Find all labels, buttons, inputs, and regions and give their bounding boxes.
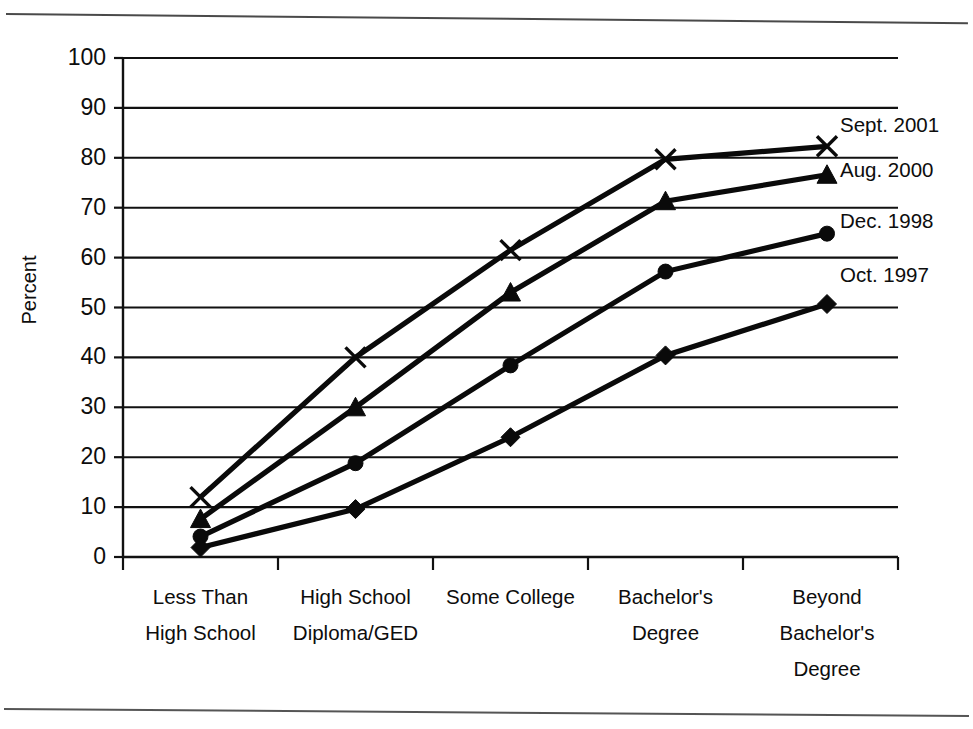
y-axis-tick-labels-group: 0102030405060708090100 [68, 44, 106, 569]
series-line-0 [201, 146, 828, 497]
series-lines-group [201, 146, 828, 547]
y-axis-ticks-group [114, 58, 123, 557]
figure-container: 0102030405060708090100 Percent Sept. 200… [0, 0, 973, 729]
series-line-2 [201, 234, 828, 537]
data-point-marker-circle [503, 358, 518, 373]
data-point-marker-triangle [501, 283, 521, 302]
category-label-3: Bachelor's [618, 585, 713, 608]
series-label-3: Oct. 1997 [840, 263, 929, 286]
y-axis-tick-label: 80 [80, 144, 106, 170]
y-axis-tick-label: 90 [80, 94, 106, 120]
series-line-3 [201, 304, 828, 548]
y-axis-tick-label: 0 [93, 543, 106, 569]
y-axis-title: Percent [18, 255, 40, 324]
category-labels-group: Less ThanHigh SchoolHigh SchoolDiploma/G… [145, 585, 874, 680]
category-label-2: Some College [446, 585, 575, 608]
series-label-1: Aug. 2000 [840, 158, 933, 181]
series-label-0: Sept. 2001 [840, 113, 939, 136]
category-label-4: Degree [793, 657, 860, 680]
y-axis-tick-label: 40 [80, 343, 106, 369]
series-label-2: Dec. 1998 [840, 209, 933, 232]
category-label-0: High School [145, 621, 256, 644]
y-axis-tick-label: 100 [68, 44, 106, 70]
category-label-1: Diploma/GED [293, 621, 418, 644]
category-label-1: High School [300, 585, 411, 608]
category-label-0: Less Than [153, 585, 248, 608]
series-labels-group: Sept. 2001Aug. 2000Dec. 1998Oct. 1997 [840, 113, 939, 286]
data-point-marker-circle [348, 456, 363, 471]
data-point-marker-diamond [818, 295, 837, 314]
category-label-4: Bachelor's [779, 621, 874, 644]
data-point-marker-circle [658, 264, 673, 279]
category-label-4: Beyond [792, 585, 862, 608]
y-axis-tick-label: 60 [80, 244, 106, 270]
data-point-marker-x [191, 487, 211, 507]
y-axis-tick-label: 30 [80, 393, 106, 419]
series-line-1 [201, 175, 828, 519]
data-point-marker-circle [820, 226, 835, 241]
y-axis-tick-label: 10 [80, 493, 106, 519]
data-point-marker-diamond [501, 428, 520, 447]
x-axis-ticks-group [123, 557, 898, 570]
y-axis-tick-label: 70 [80, 194, 106, 220]
line-chart: 0102030405060708090100 Percent Sept. 200… [0, 0, 973, 729]
data-point-marker-diamond [656, 346, 675, 365]
category-label-3: Degree [632, 621, 699, 644]
y-axis-tick-label: 20 [80, 443, 106, 469]
y-axis-tick-label: 50 [80, 294, 106, 320]
data-point-marker-diamond [346, 500, 365, 519]
